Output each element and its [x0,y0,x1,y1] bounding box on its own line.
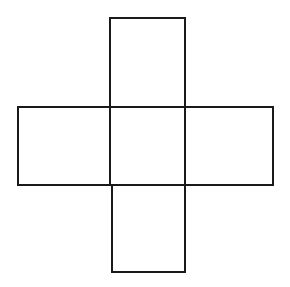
square-left [18,107,110,185]
square-bottom [112,185,185,272]
cross-net-figure [0,0,290,287]
square-right [185,107,273,185]
square-top [110,18,185,107]
diagram-canvas [0,0,290,287]
square-center [110,107,185,185]
